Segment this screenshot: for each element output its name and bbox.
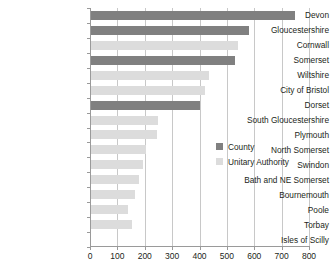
y-tick [87, 247, 90, 248]
y-tick [87, 157, 90, 158]
bar [90, 175, 139, 184]
bar [90, 86, 205, 95]
category-label: South Gloucestershire [244, 115, 332, 125]
legend-label-unitary-authority: Unitary Authority [228, 157, 289, 167]
bar [90, 145, 146, 154]
x-tick-label: 500 [212, 251, 242, 262]
x-tick-100 [117, 247, 118, 250]
x-tick-300 [172, 247, 173, 250]
category-label: City of Bristol [244, 85, 332, 95]
x-tick-label: 800 [294, 251, 324, 262]
y-tick [87, 23, 90, 24]
x-tick-label: 700 [267, 251, 297, 262]
category-label: Poole [244, 205, 332, 215]
chart-legend: County Unitary Authority [216, 139, 289, 169]
y-tick [87, 187, 90, 188]
y-tick [87, 142, 90, 143]
x-tick-500 [227, 247, 228, 250]
category-label: Isles of Scilly [244, 235, 332, 245]
category-label: Somerset [244, 55, 332, 65]
bar [90, 56, 235, 65]
legend-label-county: County [228, 142, 254, 152]
legend-swatch-unitary-authority [216, 158, 223, 165]
y-tick [87, 128, 90, 129]
y-tick [87, 172, 90, 173]
legend-swatch-county [216, 143, 223, 150]
y-tick [87, 232, 90, 233]
y-tick [87, 8, 90, 9]
bar [90, 26, 249, 35]
category-label: Torbay [244, 220, 332, 230]
bar-chart: 0100200300400500600700800 DevonGlouceste… [0, 0, 332, 277]
category-label: Bournemouth [244, 190, 332, 200]
y-tick [87, 113, 90, 114]
category-label: Cornwall [244, 40, 332, 50]
x-tick-label: 200 [130, 251, 160, 262]
category-label: Dorset [244, 100, 332, 110]
y-tick [87, 53, 90, 54]
category-label: Bath and NE Somerset [244, 175, 332, 185]
bar [90, 190, 135, 199]
y-tick [87, 68, 90, 69]
x-tick-700 [282, 247, 283, 250]
y-tick [87, 202, 90, 203]
category-label: Wiltshire [244, 70, 332, 80]
x-tick-400 [200, 247, 201, 250]
legend-item-unitary-authority: Unitary Authority [216, 154, 289, 169]
x-tick-label: 400 [185, 251, 215, 262]
bar [90, 160, 143, 169]
bar [90, 71, 209, 80]
y-tick [87, 38, 90, 39]
x-tick-label: 100 [102, 251, 132, 262]
y-tick [87, 217, 90, 218]
y-tick [87, 98, 90, 99]
legend-item-county: County [216, 139, 289, 154]
y-tick [87, 83, 90, 84]
y-axis-line [90, 8, 91, 247]
bar [90, 116, 158, 125]
x-tick-label: 600 [239, 251, 269, 262]
bar [90, 101, 200, 110]
bar [90, 220, 132, 229]
category-label: Devon [244, 10, 332, 20]
x-tick-label: 0 [75, 251, 105, 262]
x-tick-200 [145, 247, 146, 250]
bar [90, 205, 128, 214]
x-tick-800 [309, 247, 310, 250]
category-label: Gloucestershire [244, 25, 332, 35]
x-tick-600 [254, 247, 255, 250]
bar [90, 130, 157, 139]
bar [90, 41, 238, 50]
x-tick-0 [90, 247, 91, 250]
x-tick-label: 300 [157, 251, 187, 262]
